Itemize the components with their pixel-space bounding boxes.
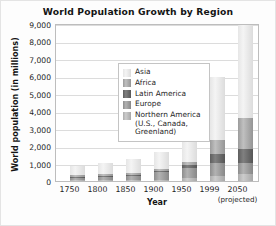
bar-segment-europe [210, 163, 225, 176]
legend-label: Latin America [135, 90, 186, 99]
bar-segment-northern-america [238, 174, 253, 181]
y-tick-label: 7,000 [13, 56, 51, 65]
legend-label: Europe [135, 100, 161, 109]
bar-2050[interactable] [238, 25, 253, 181]
bar-segment-europe [238, 163, 253, 174]
bar-segment-asia [238, 25, 253, 117]
x-axis-title: Year [55, 198, 259, 207]
y-tick-label: 4,000 [13, 108, 51, 117]
y-tick-label: 8,000 [13, 38, 51, 47]
bar-1800[interactable] [98, 163, 113, 181]
legend-label-group: Northern America (U.S., Canada, Greenlan… [135, 111, 201, 137]
bar-1999[interactable] [210, 77, 225, 181]
legend-item-africa[interactable]: Africa [123, 79, 205, 88]
bar-segment-latin-america [210, 154, 225, 163]
legend-swatch-europe-icon [123, 101, 131, 109]
bar-1950[interactable] [182, 137, 197, 181]
bar-segment-latin-america [238, 149, 253, 163]
bar-segment-northern-america [154, 180, 169, 181]
y-tick-label: 1,000 [13, 161, 51, 170]
x-tick-text: 2050 [228, 185, 248, 194]
plot-area: Asia Africa Latin America Europe Norther… [55, 24, 259, 182]
bar-segment-asia [210, 77, 225, 141]
legend-swatch-africa-icon [123, 79, 131, 87]
bar-segment-northern-america [126, 180, 141, 181]
chart-figure: World Population Growth by Region World … [0, 0, 276, 226]
legend-swatch-northern-america-icon [123, 112, 131, 120]
bar-1750[interactable] [70, 166, 85, 181]
legend-item-northern-america[interactable]: Northern America (U.S., Canada, Greenlan… [123, 111, 205, 137]
chart-title: World Population Growth by Region [0, 6, 276, 17]
bar-segment-asia [154, 152, 169, 169]
legend-label: Africa [135, 79, 156, 88]
legend-item-asia[interactable]: Asia [123, 68, 205, 77]
y-tick-label: 5,000 [13, 91, 51, 100]
legend-item-latin-america[interactable]: Latin America [123, 90, 205, 99]
bar-segment-northern-america [210, 176, 225, 181]
bar-segment-africa [238, 118, 253, 149]
chart-legend: Asia Africa Latin America Europe Norther… [118, 63, 210, 142]
legend-label: Northern America [135, 110, 201, 119]
bar-segment-northern-america [182, 178, 197, 181]
bar-1850[interactable] [126, 159, 141, 181]
bar-segment-northern-america [98, 180, 113, 181]
y-tick-label: 3,000 [13, 126, 51, 135]
bar-segment-asia [70, 166, 85, 175]
bar-segment-northern-america [70, 180, 85, 181]
legend-item-europe[interactable]: Europe [123, 100, 205, 109]
y-tick-label: 9,000 [13, 21, 51, 30]
bar-segment-asia [126, 159, 141, 173]
legend-label-line3: Greenland) [135, 128, 201, 137]
y-axis-title: World population (in millions) [11, 30, 20, 180]
legend-label: Asia [135, 68, 151, 77]
bar-segment-europe [182, 168, 197, 178]
bar-segment-africa [210, 140, 225, 153]
legend-swatch-asia-icon [123, 69, 131, 77]
legend-swatch-latin-america-icon [123, 90, 131, 98]
y-tick-label: 0 [13, 178, 51, 187]
y-tick-label: 2,000 [13, 143, 51, 152]
bar-segment-europe [154, 172, 169, 179]
y-tick-label: 6,000 [13, 73, 51, 82]
bar-1900[interactable] [154, 152, 169, 181]
bar-segment-asia [98, 163, 113, 174]
